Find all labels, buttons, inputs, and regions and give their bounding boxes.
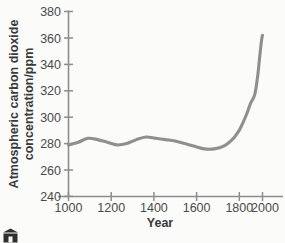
co2-data-curve bbox=[69, 35, 263, 149]
x-tick-label: 1800 bbox=[225, 201, 253, 215]
y-tick-labels: 380 360 340 320 300 280 260 240 bbox=[40, 5, 61, 204]
y-tick-label: 340 bbox=[40, 58, 61, 72]
x-tick-label: 1200 bbox=[97, 201, 125, 215]
building-icon bbox=[2, 228, 19, 243]
y-tick-label: 360 bbox=[40, 32, 61, 46]
co2-line-chart: 380 360 340 320 300 280 260 240 1000 120… bbox=[0, 0, 285, 243]
x-tick-label: 1000 bbox=[55, 201, 83, 215]
x-axis-title: Year bbox=[147, 216, 174, 230]
y-tick-label: 380 bbox=[40, 5, 61, 19]
x-tick-label: 2000 bbox=[251, 201, 279, 215]
y-tick-label: 300 bbox=[40, 111, 61, 125]
y-tick-label: 320 bbox=[40, 84, 61, 98]
y-axis-title-line1: Atmospheric carbon dioxide bbox=[7, 20, 21, 189]
y-tick-label: 260 bbox=[40, 164, 61, 178]
y-tick-label: 280 bbox=[40, 137, 61, 151]
x-tick-label: 1400 bbox=[140, 201, 168, 215]
figure-container: 380 360 340 320 300 280 260 240 1000 120… bbox=[0, 0, 285, 243]
x-tick-labels: 1000 1200 1400 1600 1800 2000 bbox=[55, 201, 279, 215]
x-tick-label: 1600 bbox=[183, 201, 211, 215]
caption-text bbox=[24, 233, 282, 243]
y-axis-title-line2: concentration/ppm bbox=[22, 48, 36, 161]
